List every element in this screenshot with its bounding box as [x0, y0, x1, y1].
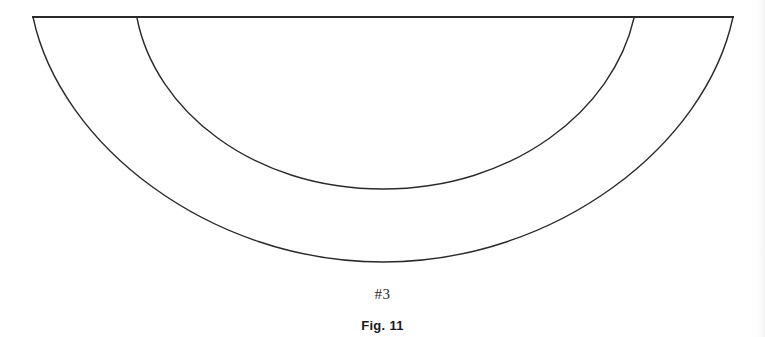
figure-page: #3 Fig. 11	[0, 0, 765, 337]
outer-hem-arc	[33, 17, 733, 262]
inner-waist-arc	[137, 18, 634, 189]
figure-caption: Fig. 11	[0, 318, 765, 333]
pattern-piece-number: #3	[0, 286, 765, 303]
